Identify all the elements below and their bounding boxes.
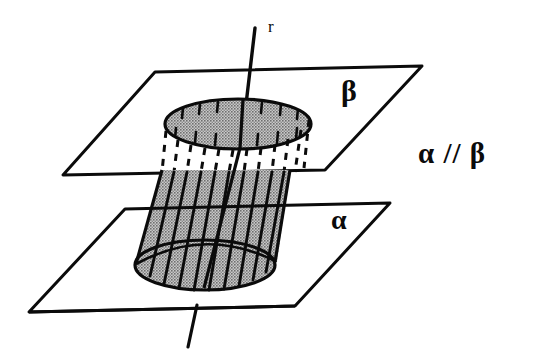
- axis-label-r: r: [268, 18, 274, 35]
- plane-label-beta: β: [341, 76, 357, 106]
- plane-label-alpha: α: [331, 206, 347, 234]
- diagram-canvas: r β α α // β: [0, 0, 535, 359]
- parallel-relation-label: α // β: [418, 139, 486, 168]
- geometry-figure: [0, 0, 535, 359]
- lower-plane-front-edge: [29, 306, 295, 312]
- axis-line-lower: [188, 305, 197, 347]
